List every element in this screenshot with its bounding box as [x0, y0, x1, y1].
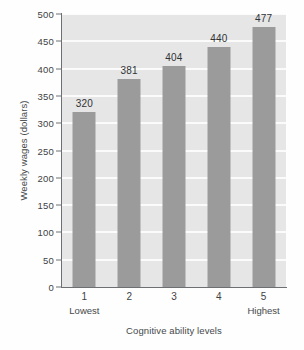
x-tick-label: 3	[171, 291, 177, 302]
bar-value-label: 320	[76, 98, 93, 109]
y-tick-label: 500	[28, 9, 54, 20]
bar-chart-figure: Weekly wages (dollars) 05010015020025030…	[0, 0, 304, 350]
y-tick-label: 150	[28, 200, 54, 211]
bar[interactable]	[252, 27, 275, 287]
bar-value-label: 381	[121, 65, 138, 76]
y-tick-label: 250	[28, 145, 54, 156]
y-tick-label: 0	[28, 282, 54, 293]
bar[interactable]	[163, 66, 186, 287]
y-tick-label: 350	[28, 90, 54, 101]
bar-value-label: 404	[165, 52, 182, 63]
y-axis-tick-labels: 050100150200250300350400450500	[28, 14, 54, 287]
x-axis-high-label: Highest	[247, 305, 279, 316]
y-tick-label: 450	[28, 36, 54, 47]
x-tick-label: 2	[126, 291, 132, 302]
bar-value-label: 440	[210, 33, 227, 44]
bar[interactable]	[207, 47, 230, 287]
bar-value-label: 477	[255, 13, 272, 24]
x-axis-low-label: Lowest	[69, 305, 99, 316]
y-tick-label: 100	[28, 227, 54, 238]
x-axis-tick-labels: 1Lowest2345Highest	[62, 291, 286, 305]
x-axis-title: Cognitive ability levels	[62, 325, 286, 336]
bar[interactable]	[73, 112, 96, 287]
bar[interactable]	[118, 79, 141, 287]
y-tick-label: 400	[28, 63, 54, 74]
y-tick-label: 50	[28, 254, 54, 265]
y-tick-label: 200	[28, 172, 54, 183]
x-axis-line	[61, 287, 287, 288]
y-tick-label: 300	[28, 118, 54, 129]
y-axis-title-text: Weekly wages (dollars)	[18, 100, 29, 200]
x-tick-label: 4	[216, 291, 222, 302]
bar-series: 320381404440477	[62, 14, 286, 287]
x-tick-label: 1	[82, 291, 88, 302]
x-tick-label: 5	[261, 291, 267, 302]
